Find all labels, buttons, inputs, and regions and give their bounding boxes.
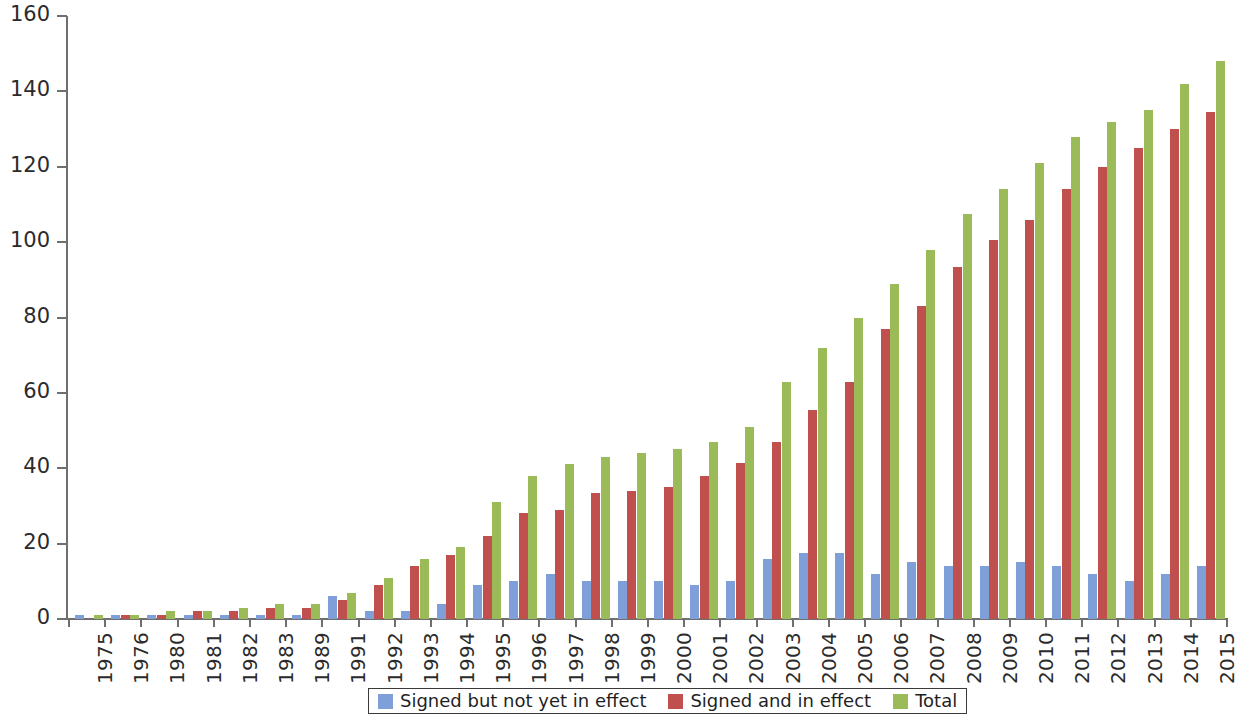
bar-group bbox=[944, 16, 972, 619]
bar-group bbox=[509, 16, 537, 619]
bar bbox=[881, 329, 890, 619]
bar bbox=[1016, 562, 1025, 619]
bar-group bbox=[980, 16, 1008, 619]
bar bbox=[726, 581, 735, 619]
bar bbox=[1062, 189, 1071, 619]
bar bbox=[220, 615, 229, 619]
y-axis-tick-label: 20 bbox=[0, 530, 50, 554]
x-axis-tick bbox=[792, 618, 794, 627]
x-axis-tick bbox=[358, 618, 360, 627]
bar bbox=[654, 581, 663, 619]
bar bbox=[1206, 112, 1215, 619]
bar bbox=[410, 566, 419, 619]
x-axis-tick bbox=[1009, 618, 1011, 627]
bar-group bbox=[437, 16, 465, 619]
x-axis-tick-label: 1982 bbox=[238, 632, 262, 684]
x-axis-tick-label: 2000 bbox=[672, 632, 696, 684]
bar bbox=[1125, 581, 1134, 619]
bar bbox=[492, 502, 501, 619]
bar-group bbox=[401, 16, 429, 619]
x-axis-tick bbox=[973, 618, 975, 627]
bar bbox=[437, 604, 446, 619]
x-axis-tick-label: 2008 bbox=[962, 632, 986, 684]
bar bbox=[75, 615, 84, 619]
bar-group bbox=[111, 16, 139, 619]
legend-item: Total bbox=[893, 692, 957, 710]
bar bbox=[1180, 84, 1189, 619]
bar bbox=[1161, 574, 1170, 619]
x-axis-tick-label: 2013 bbox=[1143, 632, 1167, 684]
bar bbox=[229, 611, 238, 619]
bar bbox=[601, 457, 610, 619]
legend-swatch-icon bbox=[378, 694, 393, 709]
bar-group bbox=[582, 16, 610, 619]
chart-legend: Signed but not yet in effectSigned and i… bbox=[368, 688, 967, 714]
bar-group bbox=[763, 16, 791, 619]
bar bbox=[582, 581, 591, 619]
x-axis-tick bbox=[466, 618, 468, 627]
bar bbox=[256, 615, 265, 619]
bar bbox=[854, 318, 863, 620]
x-axis-tick bbox=[213, 618, 215, 627]
bar bbox=[275, 604, 284, 619]
bar bbox=[94, 615, 103, 619]
x-axis-tick bbox=[177, 618, 179, 627]
bar bbox=[763, 559, 772, 619]
bar bbox=[618, 581, 627, 619]
x-axis-tick-label: 2011 bbox=[1070, 632, 1094, 684]
x-axis-tick bbox=[575, 618, 577, 627]
bar-group bbox=[726, 16, 754, 619]
y-axis-tick-label: 60 bbox=[0, 379, 50, 403]
bar bbox=[782, 382, 791, 619]
bar-group bbox=[75, 16, 103, 619]
x-axis-tick-label: 2005 bbox=[853, 632, 877, 684]
x-axis-tick-label: 2002 bbox=[744, 632, 768, 684]
x-axis-tick bbox=[1226, 618, 1228, 627]
bar bbox=[845, 382, 854, 619]
bar bbox=[1025, 220, 1034, 619]
legend-label: Total bbox=[915, 692, 957, 710]
x-axis-tick bbox=[1117, 618, 1119, 627]
bar bbox=[591, 493, 600, 619]
y-axis-tick-label: 40 bbox=[0, 454, 50, 478]
x-axis-tick-label: 2001 bbox=[708, 632, 732, 684]
bar-group bbox=[546, 16, 574, 619]
y-axis-tick-label: 120 bbox=[0, 153, 50, 177]
bar bbox=[1088, 574, 1097, 619]
bar bbox=[509, 581, 518, 619]
bar bbox=[637, 453, 646, 619]
bar bbox=[311, 604, 320, 619]
bar bbox=[890, 284, 899, 619]
y-axis-tick bbox=[57, 392, 67, 394]
y-axis-tick bbox=[57, 241, 67, 243]
bar bbox=[772, 442, 781, 619]
bar bbox=[917, 306, 926, 619]
bar bbox=[980, 566, 989, 619]
bar bbox=[700, 476, 709, 619]
x-axis-tick-label: 1989 bbox=[310, 632, 334, 684]
bar-group bbox=[473, 16, 501, 619]
bar bbox=[736, 463, 745, 619]
bar-group bbox=[256, 16, 284, 619]
bar bbox=[184, 615, 193, 619]
bar bbox=[1144, 110, 1153, 619]
bar bbox=[1107, 122, 1116, 619]
bar bbox=[963, 214, 972, 619]
legend-label: Signed and in effect bbox=[690, 692, 871, 710]
x-axis-tick-label: 2007 bbox=[925, 632, 949, 684]
bar bbox=[673, 449, 682, 619]
bar bbox=[147, 615, 156, 619]
bar bbox=[365, 611, 374, 619]
x-axis-tick bbox=[1045, 618, 1047, 627]
x-axis-tick-label: 1980 bbox=[165, 632, 189, 684]
x-axis-tick bbox=[719, 618, 721, 627]
bar bbox=[1052, 566, 1061, 619]
bar-group bbox=[1052, 16, 1080, 619]
bar bbox=[239, 608, 248, 619]
bar bbox=[953, 267, 962, 619]
bar bbox=[130, 615, 139, 619]
bar bbox=[835, 553, 844, 619]
bar-group bbox=[654, 16, 682, 619]
bar-group bbox=[1161, 16, 1189, 619]
